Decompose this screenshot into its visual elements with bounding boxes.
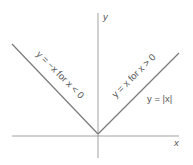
x-axis-label: x	[173, 137, 180, 148]
function-label: y = |x|	[147, 93, 172, 104]
absolute-value-graph: y x y = −x for x < 0 y = x for x > 0 y =…	[0, 0, 193, 165]
left-branch-label: y = −x for x < 0	[34, 48, 86, 100]
left-branch-line	[12, 44, 98, 134]
y-axis-label: y	[102, 11, 109, 22]
